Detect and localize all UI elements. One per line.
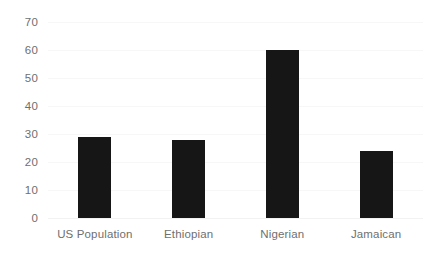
- x-axis-tick-label: Nigerian: [236, 228, 330, 240]
- bar-slot: [48, 22, 142, 218]
- x-axis: US PopulationEthiopianNigerianJamaican: [48, 224, 423, 254]
- y-axis: 010203040506070: [0, 0, 48, 257]
- y-axis-tick-label: 60: [25, 44, 38, 56]
- y-axis-tick-label: 30: [25, 128, 38, 140]
- bars-layer: [48, 22, 423, 218]
- x-axis-tick-label: Jamaican: [329, 228, 423, 240]
- x-axis-tick-label: US Population: [48, 228, 142, 240]
- y-axis-tick-label: 10: [25, 184, 38, 196]
- bar-slot: [142, 22, 236, 218]
- bar: [78, 137, 111, 218]
- y-axis-tick-label: 50: [25, 72, 38, 84]
- y-axis-tick-label: 20: [25, 156, 38, 168]
- bar: [172, 140, 205, 218]
- y-axis-tick-label: 0: [31, 212, 38, 224]
- bar: [360, 151, 393, 218]
- y-axis-tick-label: 70: [25, 16, 38, 28]
- y-axis-tick-label: 40: [25, 100, 38, 112]
- bar-slot: [329, 22, 423, 218]
- x-axis-tick-label: Ethiopian: [142, 228, 236, 240]
- bar-slot: [236, 22, 330, 218]
- gridline: [48, 218, 423, 219]
- bar: [266, 50, 299, 218]
- bar-chart: 010203040506070 US PopulationEthiopianNi…: [0, 0, 433, 257]
